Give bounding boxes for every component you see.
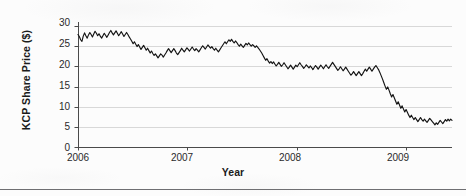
bottom-divider-rule	[0, 189, 466, 190]
plot-canvas	[0, 0, 466, 196]
y-tick-marks-group	[75, 27, 79, 148]
price-series-line	[78, 30, 452, 124]
axes-group	[78, 22, 452, 148]
share-price-figure: KCP Share Price ($) 30 25 20 15 10 5 0 2…	[0, 0, 466, 196]
